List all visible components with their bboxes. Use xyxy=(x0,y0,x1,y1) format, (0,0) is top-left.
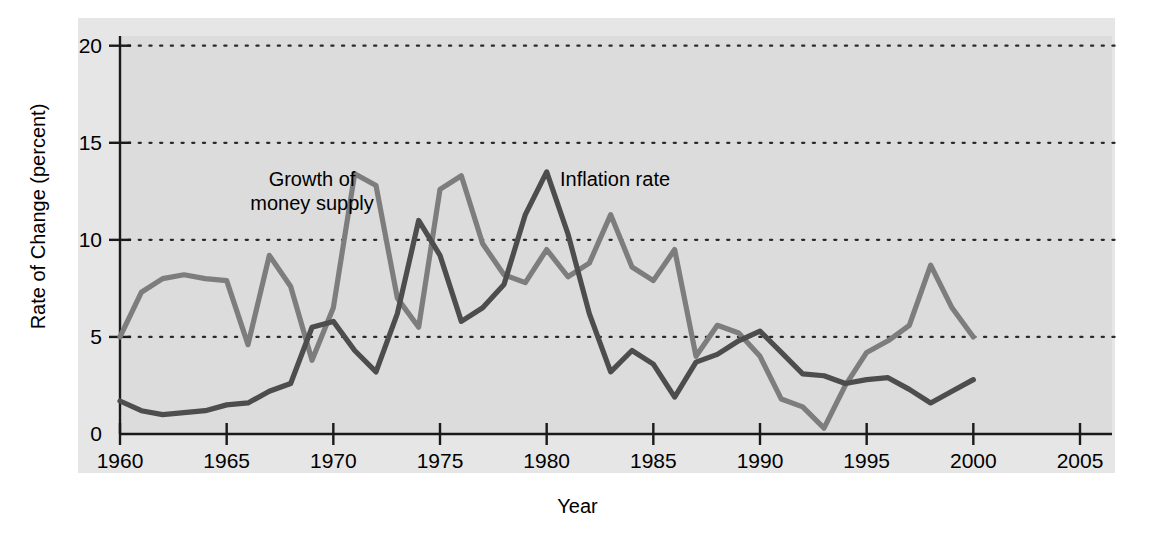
x-tick-label-1975: 1975 xyxy=(395,450,485,471)
y-axis-title: Rate of Change (percent) xyxy=(27,87,50,347)
y-tick-label-15: 15 xyxy=(58,132,102,153)
series-label-inflation: Inflation rate xyxy=(560,168,750,192)
x-tick-label-2000: 2000 xyxy=(928,450,1018,471)
y-tick-label-0: 0 xyxy=(58,423,102,444)
y-tick-label-10: 10 xyxy=(58,229,102,250)
x-tick-label-1970: 1970 xyxy=(288,450,378,471)
x-axis-title: Year xyxy=(0,495,1155,518)
y-tick-label-20: 20 xyxy=(58,35,102,56)
x-tick-label-1965: 1965 xyxy=(182,450,272,471)
x-tick-label-2005: 2005 xyxy=(1035,450,1125,471)
series-label-money-supply: Growth of money supply xyxy=(222,168,402,215)
axis-lines xyxy=(120,36,1112,434)
x-tick-label-1980: 1980 xyxy=(502,450,592,471)
x-tick-label-1995: 1995 xyxy=(822,450,912,471)
x-tick-label-1990: 1990 xyxy=(715,450,805,471)
y-tick-label-5: 5 xyxy=(58,326,102,347)
x-tick-label-1960: 1960 xyxy=(75,450,165,471)
chart-figure: 05101520 1960196519701975198019851990199… xyxy=(0,0,1155,533)
x-tick-label-1985: 1985 xyxy=(608,450,698,471)
